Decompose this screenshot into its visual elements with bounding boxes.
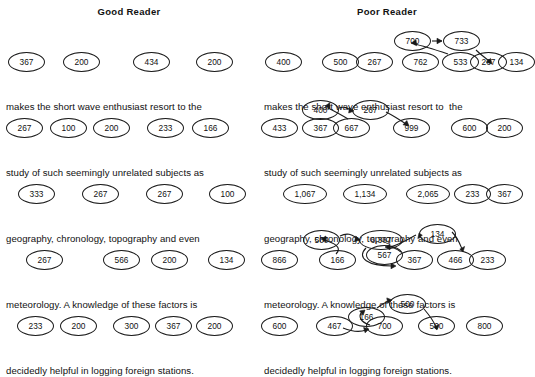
sentence-line: makes the short wave enthusiast resort t… (6, 101, 202, 112)
fixation-circle: 733 (443, 31, 480, 51)
fixation-circle: 762 (402, 52, 439, 72)
fixation-circle: 267 (356, 52, 393, 72)
sentence-line: meteorology. A knowledge of these factor… (6, 299, 197, 310)
fixation-circle: 1,134 (343, 184, 387, 204)
fixation-circle: 2,065 (406, 184, 450, 204)
fixation-circle: 134 (419, 224, 456, 244)
fixation-circle: 100 (50, 118, 87, 138)
column-good-reader: Good Reader367200434200makes the short w… (0, 0, 258, 377)
fixation-circle: 166 (192, 118, 229, 138)
fixation-circle: 200 (196, 316, 233, 336)
eye-movement-row: 367200434200makes the short wave enthusi… (0, 46, 258, 112)
fixation-circle: 600 (261, 316, 298, 336)
eye-movement-row: 233200300367200decidedly helpful in logg… (0, 310, 258, 376)
arrow-line (340, 234, 357, 238)
sentence-line: decidedly helpful in logging foreign sta… (264, 365, 452, 376)
fixation-circle: 367 (486, 184, 523, 204)
eye-movement-row: 333267267100geography, chronology, topog… (0, 178, 258, 244)
fixation-circle: 200 (196, 52, 233, 72)
fixation-circle: 300 (113, 316, 150, 336)
column-poor-reader: Poor Reader700733400500267762533267134ma… (258, 0, 516, 377)
fixation-circle: 467 (316, 316, 353, 336)
fixation-circle: 700 (366, 316, 403, 336)
fixation-circle: 367 (8, 52, 45, 72)
fixation-circle: 600 (451, 118, 488, 138)
fixation-circle: 267 (6, 118, 43, 138)
eye-movement-row: 500166600467700500800decidedly helpful i… (258, 310, 516, 376)
fixation-circle: 500 (418, 316, 455, 336)
eye-movement-row: 267566200134meteorology. A knowledge of … (0, 244, 258, 310)
sentence-line: study of such seemingly unrelated subjec… (6, 167, 204, 178)
column-title-good-reader: Good Reader (0, 6, 258, 17)
fixation-circle: 433 (261, 118, 298, 138)
fixation-circle: 500 (322, 52, 359, 72)
fixation-circle: 566 (103, 250, 140, 270)
fixation-circle: 200 (486, 118, 523, 138)
fixation-circle: 667 (333, 118, 370, 138)
sentence-line: study of such seemingly unrelated subjec… (264, 167, 462, 178)
fixation-circle: 700 (394, 31, 431, 51)
fixation-circle: 200 (60, 316, 97, 336)
fixation-circle: 400 (302, 100, 339, 120)
fixation-circle: 134 (498, 52, 535, 72)
fixation-circle: 267 (26, 250, 63, 270)
fixation-circle: 200 (151, 250, 188, 270)
fixation-circle: 866 (261, 250, 298, 270)
fixation-circle: 367 (396, 250, 433, 270)
fixation-circle: 134 (208, 250, 245, 270)
fixation-circle: 333 (18, 184, 55, 204)
fixation-circle: 166 (319, 250, 356, 270)
fixation-circle: 434 (133, 52, 170, 72)
fixation-circle: 367 (155, 316, 192, 336)
fixation-circle: 267 (352, 100, 389, 120)
fixation-circle: 500 (389, 294, 426, 314)
arrow-head (437, 38, 442, 44)
fixation-circle: 800 (466, 316, 503, 336)
eye-movement-row: 267100200233166study of such seemingly u… (0, 112, 258, 178)
fixation-circle: 1,067 (283, 184, 327, 204)
sentence-line: decidedly helpful in logging foreign sta… (6, 365, 194, 376)
fixation-circle: 200 (93, 118, 130, 138)
eye-movement-row: 400267433367667999600200study of such se… (258, 112, 516, 178)
fixation-circle: 267 (82, 184, 119, 204)
fixation-circle: 999 (393, 118, 430, 138)
fixation-circle: 400 (265, 52, 302, 72)
fixation-circle: 200 (63, 52, 100, 72)
fixation-circle: 233 (17, 316, 54, 336)
sentence-line: geography, chronology, topography and ev… (6, 233, 200, 244)
fixation-circle: 233 (469, 250, 506, 270)
fixation-circle: 100 (209, 184, 246, 204)
fixation-circle: 233 (147, 118, 184, 138)
fixation-circle: 500 (303, 230, 340, 250)
fixation-circle: 267 (146, 184, 183, 204)
